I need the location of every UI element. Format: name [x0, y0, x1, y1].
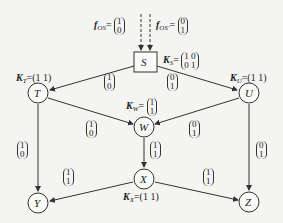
kernel-s: KS= 1 00 1 — [163, 52, 199, 70]
kernel-x: KX=(1 1) — [123, 192, 159, 205]
source-f-os-prime: fOS'= 01 — [156, 17, 188, 35]
edge-label-x-z: 11 — [203, 168, 214, 186]
edge-label-x-y: 11 — [63, 168, 74, 186]
kernel-u: KU=(1 1) — [230, 73, 267, 86]
node-y: Y — [34, 198, 40, 208]
edge-label-w-x: 11 — [150, 141, 161, 159]
edge-label-s-t: 10 — [104, 73, 115, 91]
edge-label-t-y: 10 — [17, 141, 28, 159]
source-f-os: fOS= 10 — [94, 17, 125, 35]
node-z: Z — [245, 197, 251, 207]
node-x: X — [140, 174, 147, 184]
node-t: T — [34, 88, 40, 98]
kernel-w: KW= 11 — [126, 98, 157, 116]
edge-label-u-z: 01 — [256, 141, 267, 159]
node-w: W — [139, 122, 148, 132]
edge-label-u-w: 01 — [189, 120, 200, 138]
edge-label-s-u: 01 — [167, 73, 178, 91]
edge-label-t-w: 10 — [86, 120, 97, 138]
kernel-t: KT=(1 1) — [16, 73, 51, 86]
node-s: S — [141, 57, 147, 67]
node-u: U — [245, 88, 253, 98]
